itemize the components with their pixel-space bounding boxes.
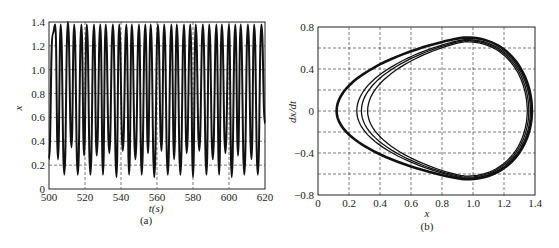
x-axis-label-a: t(s)	[149, 202, 164, 215]
y-tick-label: 0.4	[300, 63, 314, 75]
x-tick-label: 1.2	[497, 197, 511, 209]
x-tick-label: 620	[257, 191, 274, 203]
y-tick-label: 0.6	[31, 111, 45, 123]
phase-orbit	[368, 42, 528, 176]
y-tick-label: 0.8	[31, 88, 45, 100]
panel-a-time-series: 50052054056058060062000.20.40.60.81.01.2…	[31, 16, 274, 203]
y-tick-label: −0.8	[294, 189, 314, 201]
x-axis-label-b: x	[424, 207, 430, 219]
y-tick-label: 1.0	[31, 64, 45, 76]
y-axis-label-b: dx/dt	[286, 100, 298, 123]
caption-a: (a)	[140, 214, 153, 227]
caption-b: (b)	[421, 220, 434, 233]
x-tick-label: 540	[113, 191, 130, 203]
x-tick-label: 580	[185, 191, 202, 203]
x-tick-label: 600	[221, 191, 238, 203]
phase-orbit	[337, 38, 532, 180]
x-tick-label: 0.4	[373, 197, 387, 209]
x-tick-label: 0.6	[404, 197, 418, 209]
y-tick-label: 0.4	[31, 135, 45, 147]
x-tick-label: 1.0	[466, 197, 480, 209]
x-tick-label: 520	[77, 191, 94, 203]
phase-orbit	[357, 40, 531, 179]
x-tick-label: 0	[315, 197, 321, 209]
y-tick-label: 1.4	[31, 16, 45, 28]
y-tick-label: 0.8	[300, 21, 314, 33]
y-tick-label: 1.2	[31, 40, 45, 52]
y-tick-label: 0	[40, 183, 46, 195]
x-tick-label: 0.8	[435, 197, 449, 209]
figure-canvas: 50052054056058060062000.20.40.60.81.01.2…	[0, 0, 559, 248]
x-tick-label: 0.2	[342, 197, 356, 209]
y-axis-label-a: x	[12, 105, 24, 111]
y-tick-label: 0	[309, 105, 315, 117]
x-tick-label: 1.4	[528, 197, 542, 209]
y-tick-label: −0.4	[294, 147, 314, 159]
y-tick-label: 0.2	[31, 159, 45, 171]
panel-b-phase-portrait: 00.20.40.60.81.01.21.4−0.8−0.400.40.8	[294, 21, 542, 209]
